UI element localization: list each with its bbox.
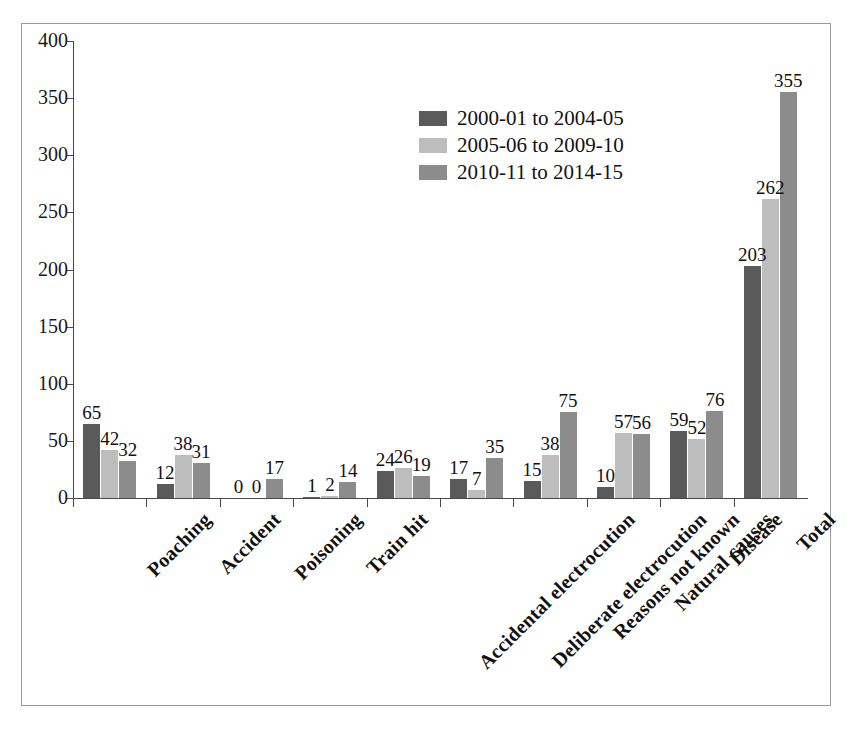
bar (560, 412, 577, 498)
x-axis-category-label: Accident (215, 508, 285, 578)
legend-item: 2000-01 to 2004-05 (419, 106, 679, 130)
x-axis-tick (440, 499, 441, 507)
x-axis-category-label: Poaching (142, 508, 214, 580)
x-axis-tick (513, 499, 514, 507)
y-axis-tick-label: 250 (22, 201, 68, 221)
bar-value-label: 10 (589, 466, 623, 485)
x-axis-tick (146, 499, 147, 507)
legend-item: 2005-06 to 2009-10 (419, 133, 679, 157)
y-axis-tick-label: 150 (22, 316, 68, 336)
bar-value-label: 31 (184, 442, 218, 461)
bar (597, 487, 614, 498)
bar-value-label: 7 (460, 469, 494, 488)
x-axis-category-label: Poisoning (290, 508, 366, 584)
x-axis-tick (220, 499, 221, 507)
bar-value-label: 14 (331, 461, 365, 480)
x-axis-tick (367, 499, 368, 507)
legend-item: 2010-11 to 2014-15 (419, 160, 679, 184)
bar (321, 496, 338, 498)
bar-value-label: 56 (625, 413, 659, 432)
chart-legend: 2000-01 to 2004-052005-06 to 2009-102010… (419, 106, 679, 187)
y-axis-tick-label: 300 (22, 144, 68, 164)
figure-frame: 400350300250200150100500 654232123831001… (21, 23, 831, 706)
bar (670, 431, 687, 498)
bar-value-label: 38 (533, 434, 567, 453)
legend-swatch (419, 165, 447, 180)
bar-value-label: 75 (551, 391, 585, 410)
x-axis-tick (734, 499, 735, 507)
bar (413, 476, 430, 498)
x-axis-tick (293, 499, 294, 507)
bar (468, 490, 485, 498)
bar (193, 463, 210, 498)
x-axis-tick (660, 499, 661, 507)
bar (157, 484, 174, 498)
bar (524, 481, 541, 498)
y-axis-tick-label: 350 (22, 87, 68, 107)
bar-value-label: 52 (680, 418, 714, 437)
bar (780, 92, 797, 498)
legend-swatch (419, 138, 447, 153)
bar (633, 434, 650, 498)
y-axis-tick-label: 0 (22, 487, 68, 507)
y-axis-tick-label: 200 (22, 259, 68, 279)
legend-label: 2000-01 to 2004-05 (457, 108, 624, 129)
bar-value-label: 262 (753, 178, 787, 197)
bar-value-label: 17 (258, 458, 292, 477)
bar-value-label: 65 (75, 403, 109, 422)
legend-swatch (419, 111, 447, 126)
bar-value-label: 12 (148, 463, 182, 482)
x-axis-tick (587, 499, 588, 507)
legend-label: 2005-06 to 2009-10 (457, 135, 624, 156)
x-axis-tick (73, 499, 74, 507)
y-axis-tick-label: 400 (22, 30, 68, 50)
legend-label: 2010-11 to 2014-15 (457, 162, 623, 183)
bar-value-label: 19 (404, 455, 438, 474)
bar-value-label: 35 (478, 437, 512, 456)
bar-value-label: 0 (240, 477, 274, 496)
bar (377, 471, 394, 498)
bar (119, 461, 136, 498)
bar (688, 439, 705, 498)
x-axis-category-label: Total (792, 508, 839, 555)
bar-value-label: 32 (111, 440, 145, 459)
x-axis-category-label: Train hit (361, 508, 431, 578)
bar-value-label: 15 (515, 460, 549, 479)
bar-value-label: 355 (771, 71, 805, 90)
bar (303, 497, 320, 498)
bar (744, 266, 761, 498)
y-axis-tick-label: 100 (22, 373, 68, 393)
bar-value-label: 203 (735, 245, 769, 264)
bar-value-label: 76 (698, 390, 732, 409)
y-axis-tick-label: 50 (22, 430, 68, 450)
